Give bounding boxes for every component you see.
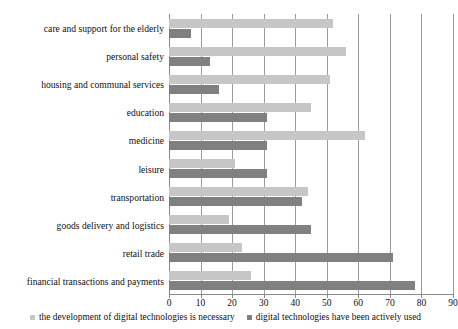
bars [169, 14, 453, 295]
bar-series-necessary [169, 271, 251, 280]
bar-series-necessary [169, 131, 365, 140]
bar-series-actively-used [169, 141, 267, 150]
bar-series-actively-used [169, 113, 267, 122]
category-label: medicine [0, 135, 164, 146]
category-label: financial transactions and payments [0, 275, 164, 286]
x-axis-tick-label: 70 [385, 298, 395, 309]
square-marker-icon [30, 315, 35, 320]
category-label: care and support for the elderly [0, 23, 164, 34]
category-label: leisure [0, 163, 164, 174]
bar-series-necessary [169, 159, 235, 168]
x-axis-tick-label: 10 [196, 298, 206, 309]
x-axis-line [169, 294, 454, 295]
square-marker-icon [247, 315, 252, 320]
bar-series-actively-used [169, 197, 302, 206]
gridline [453, 14, 454, 295]
category-label: education [0, 107, 164, 118]
x-axis-tick-label: 20 [227, 298, 237, 309]
plot-area [169, 14, 453, 295]
legend-label: the development of digital technologies … [39, 311, 235, 323]
x-axis-tick-label: 90 [448, 298, 458, 309]
bar-series-necessary [169, 47, 346, 56]
category-label: transportation [0, 191, 164, 202]
x-axis-tick-label: 60 [354, 298, 364, 309]
bar-series-actively-used [169, 253, 393, 262]
category-label: goods delivery and logistics [0, 219, 164, 230]
legend-item-necessary: the development of digital technologies … [30, 311, 235, 323]
legend-label: digital technologies have been actively … [256, 311, 421, 323]
category-label: housing and communal services [0, 79, 164, 90]
x-axis-tick-label: 40 [290, 298, 300, 309]
category-axis-labels: care and support for the elderlypersonal… [0, 14, 164, 295]
bar-series-necessary [169, 103, 311, 112]
legend-item-actively-used: digital technologies have been actively … [247, 311, 421, 323]
bar-series-necessary [169, 187, 308, 196]
x-axis-tick-label: 50 [322, 298, 332, 309]
bar-series-necessary [169, 75, 330, 84]
bar-series-actively-used [169, 225, 311, 234]
bar-series-actively-used [169, 29, 191, 38]
x-axis-tick-label: 0 [167, 298, 172, 309]
bar-series-actively-used [169, 169, 267, 178]
category-label: personal safety [0, 51, 164, 62]
category-label: retail trade [0, 247, 164, 258]
bar-series-actively-used [169, 57, 210, 66]
bar-series-actively-used [169, 85, 219, 94]
bar-series-necessary [169, 19, 333, 28]
x-axis-tick-label: 80 [417, 298, 427, 309]
x-axis-tick-label: 30 [259, 298, 269, 309]
chart-legend: the development of digital technologies … [0, 311, 451, 323]
bar-series-actively-used [169, 281, 415, 290]
bar-series-necessary [169, 243, 242, 252]
bar-series-necessary [169, 215, 229, 224]
